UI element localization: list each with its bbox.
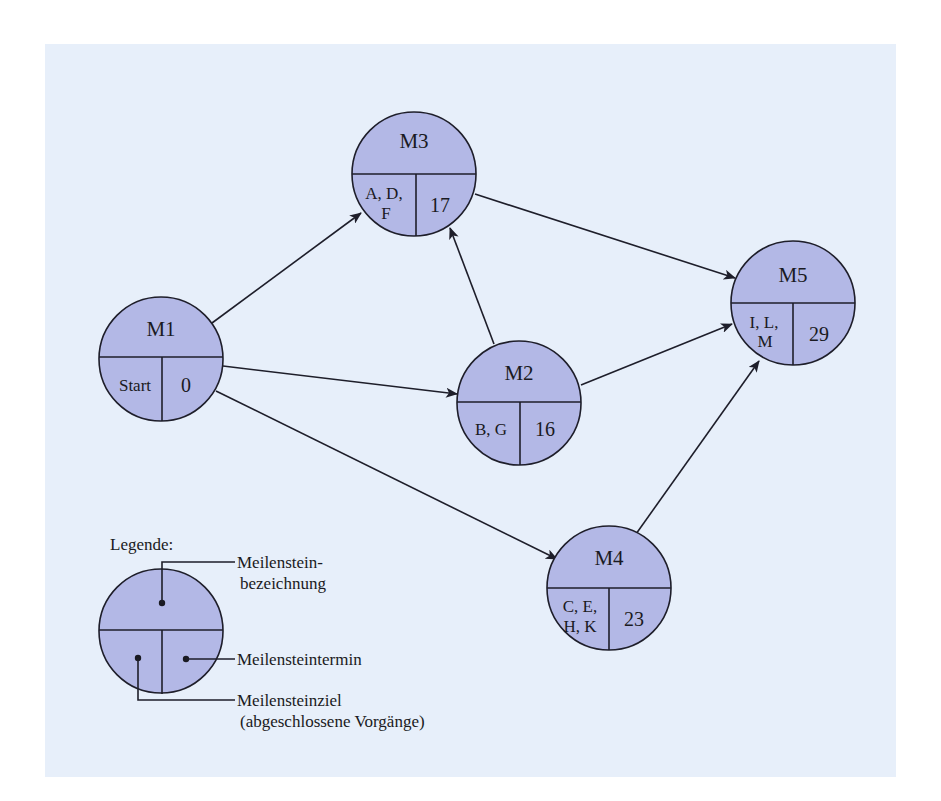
node-activities: H, K xyxy=(563,617,597,636)
milestone-node-m3: M3 A, D, F 17 xyxy=(352,112,476,236)
milestone-node-m2: M2 B, G 16 xyxy=(457,341,581,465)
legend-name-label: Meilenstein- xyxy=(237,553,323,572)
node-date: 17 xyxy=(430,194,450,216)
node-date: 0 xyxy=(181,374,191,396)
milestone-node-m1: M1 Start 0 xyxy=(99,297,223,421)
node-title: M2 xyxy=(504,361,533,385)
legend-date-label: Meilensteintermin xyxy=(237,650,362,669)
node-activities: F xyxy=(381,204,390,223)
milestone-node-m5: M5 I, L, M 29 xyxy=(731,241,855,365)
legend-goal-label: (abgeschlossene Vorgänge) xyxy=(240,712,425,731)
node-activities: C, E, xyxy=(563,597,597,616)
node-activities: I, L, xyxy=(750,313,779,332)
node-title: M4 xyxy=(594,546,624,570)
node-activities: B, G xyxy=(475,420,507,439)
node-date: 29 xyxy=(809,323,829,345)
milestone-node-m4: M4 C, E, H, K 23 xyxy=(547,526,671,650)
legend-goal-label: Meilensteinziel xyxy=(237,691,342,710)
node-title: M1 xyxy=(146,317,175,341)
milestone-diagram: M3 A, D, F 17 M1 Start 0 M2 B, G 16 M5 I… xyxy=(0,0,941,801)
node-date: 16 xyxy=(535,418,555,440)
node-date: 23 xyxy=(624,608,644,630)
legend-name-label: bezeichnung xyxy=(240,574,326,593)
node-title: M3 xyxy=(399,129,428,153)
node-activities: M xyxy=(757,332,772,351)
node-activities: A, D, xyxy=(365,184,402,203)
node-activities: Start xyxy=(119,376,151,395)
node-title: M5 xyxy=(778,263,807,287)
legend-heading: Legende: xyxy=(110,535,173,554)
